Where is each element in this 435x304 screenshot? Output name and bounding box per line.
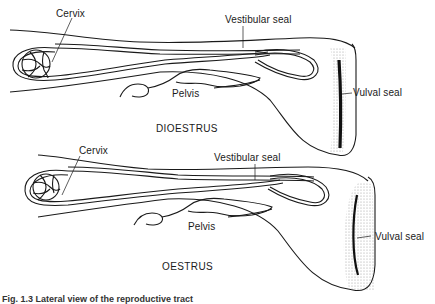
- cervix-label-dioestrus: Cervix: [56, 9, 85, 19]
- vestibular-seal-label-oestrus: Vestibular seal: [214, 153, 281, 163]
- pelvis-label-dioestrus: Pelvis: [172, 89, 199, 99]
- vestibular-seal-label-dioestrus: Vestibular seal: [225, 15, 292, 25]
- oestrus-title: OESTRUS: [162, 262, 213, 272]
- pelvis-label-oestrus: Pelvis: [188, 222, 215, 232]
- cervix-label-oestrus: Cervix: [79, 146, 108, 156]
- dioestrus-title: DIOESTRUS: [156, 124, 218, 134]
- figure-caption: Fig. 1.3 Lateral view of the reproductiv…: [2, 295, 193, 304]
- vulval-seal-label-dioestrus: Vulval seal: [353, 88, 402, 98]
- vulval-seal-label-oestrus: Vulval seal: [375, 232, 424, 242]
